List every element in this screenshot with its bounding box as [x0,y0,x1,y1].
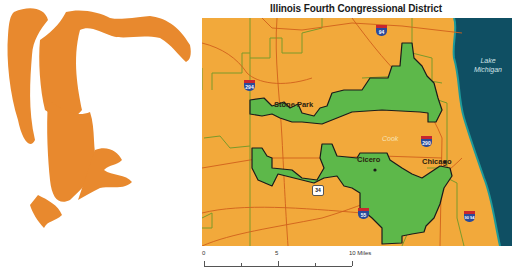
interstate-55-shield-icon: 55 [358,208,369,219]
place-label-stone-park: Stone Park [274,100,313,109]
scale-tick [352,261,353,266]
lake-label: Lake Michigan [466,56,510,74]
place-label-chicago: Chicago [422,157,452,166]
map-title: Illinois Fourth Congressional District [200,3,512,14]
lake-label-line1: Lake [466,56,510,65]
county-label-cook: Cook [382,135,398,142]
scale-tick [204,261,205,266]
interstate-90-94-shield-icon: 90 94 [464,211,475,222]
scale-line [204,266,352,267]
place-label-cicero: Cicero [357,155,380,164]
scale-label-10: 10 Miles [349,250,371,256]
lake-label-line2: Michigan [466,65,510,74]
creature-drawing-icon [0,0,200,273]
us-34-shield-icon: 34 [312,185,324,196]
scale-tick [241,263,242,266]
scale-tick [315,263,316,266]
interstate-290-shield-icon: 290 [421,136,432,147]
scale-label-0: 0 [202,250,205,256]
district-map: Stone Park Cicero Chicago Cook Lake Mich… [202,18,512,246]
interstate-294-shield-icon: 294 [244,80,255,91]
scale-bar: 0 5 10 Miles [202,250,402,272]
cicero-dot [373,168,376,171]
scale-tick [278,261,279,266]
interstate-94-shield-icon: 94 [376,25,387,36]
scale-label-5: 5 [275,250,278,256]
gerrymander-illustration [0,0,200,273]
